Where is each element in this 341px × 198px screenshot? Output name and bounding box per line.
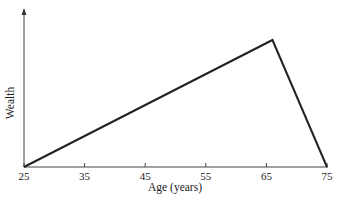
x-tick-label: 75 [322, 170, 333, 182]
y-axis-arrow-icon [22, 8, 27, 15]
x-axis-label: Age (years) [148, 181, 202, 193]
x-tick-label: 25 [19, 170, 30, 182]
x-tick-label: 65 [261, 170, 272, 182]
chart-canvas [0, 0, 341, 198]
wealth-line [24, 40, 327, 167]
x-ticks [24, 163, 327, 167]
y-axis-label: Wealth [4, 87, 16, 119]
x-tick-label: 35 [79, 170, 90, 182]
